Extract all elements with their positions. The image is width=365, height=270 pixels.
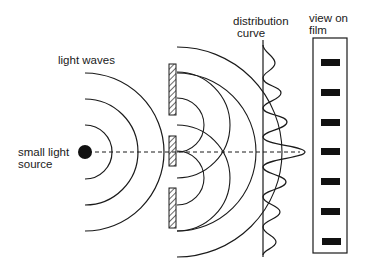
- light-waves-label: light waves: [58, 54, 115, 66]
- source-label-line2: source: [18, 158, 53, 170]
- film-band: [321, 148, 340, 155]
- distribution-label-line2: curve: [237, 27, 265, 39]
- film-band: [322, 238, 341, 245]
- film-band: [321, 178, 340, 185]
- source-label-line1: small light: [18, 146, 69, 158]
- film-frame: [313, 38, 347, 253]
- film-label-line2: film: [309, 24, 327, 36]
- film-band: [321, 208, 340, 215]
- distribution-curve: [263, 45, 305, 255]
- double-slit-diagram: [0, 0, 365, 270]
- light-source-dot: [78, 145, 92, 159]
- film-band: [321, 89, 340, 96]
- film-band: [321, 59, 340, 66]
- film-label-line1: view on: [309, 12, 348, 24]
- slit-barrier: [169, 64, 176, 228]
- barrier-piece-top: [169, 64, 176, 115]
- barrier-piece-middle: [169, 136, 176, 166]
- film-band: [321, 119, 340, 126]
- distribution-label-line1: distribution: [233, 15, 289, 27]
- barrier-piece-bottom: [169, 188, 176, 228]
